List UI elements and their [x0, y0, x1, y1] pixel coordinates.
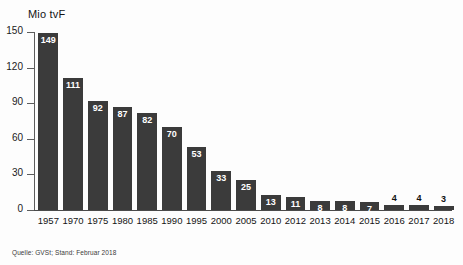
bar: 111 — [63, 78, 83, 210]
x-axis-tick-label: 1970 — [61, 215, 86, 226]
x-axis-tick-label: 2018 — [431, 215, 456, 226]
bar-value-label: 4 — [384, 194, 404, 203]
bar-value-label: 13 — [261, 198, 281, 207]
y-axis-tick-label: 90 — [12, 96, 23, 107]
bar: 25 — [236, 180, 256, 210]
bar-value-label: 25 — [236, 183, 256, 192]
x-axis-tick-label: 2016 — [382, 215, 407, 226]
bar-item: 7 — [360, 32, 380, 210]
bar-value-label: 8 — [335, 204, 355, 213]
plot-area: 0306090120150 14911192878270533325131188… — [34, 32, 454, 210]
x-axis-tick-label: 2014 — [332, 215, 357, 226]
y-axis-tick: 60 — [27, 139, 34, 140]
x-axis-tick-label: 2017 — [407, 215, 432, 226]
x-axis-tick-label: 1995 — [184, 215, 209, 226]
bar-value-label: 87 — [113, 110, 133, 119]
x-axis-line — [28, 210, 452, 211]
bar: 53 — [187, 147, 207, 210]
x-axis-tick-label: 1990 — [160, 215, 185, 226]
y-axis-tick-label: 150 — [6, 25, 23, 36]
bar-value-label: 11 — [286, 200, 306, 209]
y-axis-tick: 90 — [27, 103, 34, 104]
x-axis-tick-label: 1985 — [135, 215, 160, 226]
bar-item: 13 — [261, 32, 281, 210]
bar-value-label: 33 — [211, 174, 231, 183]
bar-item: 111 — [63, 32, 83, 210]
bar: 4 — [384, 205, 404, 210]
bar-item: 8 — [310, 32, 330, 210]
x-axis-tick-label: 2015 — [357, 215, 382, 226]
bar: 149 — [38, 33, 58, 210]
bar-item: 53 — [187, 32, 207, 210]
y-axis-tick: 0 — [27, 210, 34, 211]
bar-item: 87 — [113, 32, 133, 210]
bar: 8 — [310, 201, 330, 210]
bar: 7 — [360, 202, 380, 210]
y-axis-tick: 30 — [27, 174, 34, 175]
bar: 11 — [286, 197, 306, 210]
x-axis-tick-label: 1975 — [85, 215, 110, 226]
bar-value-label: 3 — [434, 195, 454, 204]
bar-item: 33 — [211, 32, 231, 210]
bar: 33 — [211, 171, 231, 210]
bar-value-label: 149 — [38, 36, 58, 45]
bar-value-label: 82 — [137, 116, 157, 125]
y-axis-tick-label: 120 — [6, 61, 23, 72]
bar-item: 4 — [409, 32, 429, 210]
x-axis-tick-label: 2005 — [234, 215, 259, 226]
y-axis-tick: 120 — [27, 68, 34, 69]
bar-value-label: 8 — [310, 204, 330, 213]
bar-item: 70 — [162, 32, 182, 210]
x-axis-tick-label: 1957 — [36, 215, 61, 226]
x-axis-tick-label: 1980 — [110, 215, 135, 226]
y-axis-title: Mio tvF — [28, 8, 65, 20]
bar-item: 82 — [137, 32, 157, 210]
bar: 8 — [335, 201, 355, 210]
bar-value-label: 70 — [162, 130, 182, 139]
bar: 70 — [162, 127, 182, 210]
bar-chart-figure: Mio tvF 0306090120150 149111928782705333… — [0, 0, 463, 265]
bar: 87 — [113, 107, 133, 210]
y-axis-line — [34, 32, 35, 210]
bar-item: 11 — [286, 32, 306, 210]
bar-item: 92 — [88, 32, 108, 210]
x-axis-tick-label: 2000 — [209, 215, 234, 226]
y-axis-tick-label: 60 — [12, 132, 23, 143]
y-axis-tick-label: 0 — [17, 203, 23, 214]
bar-value-label: 111 — [63, 81, 83, 90]
bar-item: 3 — [434, 32, 454, 210]
y-axis-tick-label: 30 — [12, 167, 23, 178]
y-axis-tick: 150 — [27, 32, 34, 33]
bar-item: 149 — [38, 32, 58, 210]
bar: 13 — [261, 195, 281, 210]
bar-value-label: 92 — [88, 104, 108, 113]
x-axis-tick-label: 2013 — [308, 215, 333, 226]
bar: 3 — [434, 206, 454, 210]
bar: 4 — [409, 205, 429, 210]
x-axis-tick-label: 2012 — [283, 215, 308, 226]
bar-value-label: 7 — [360, 205, 380, 214]
bar-item: 25 — [236, 32, 256, 210]
x-axis-tick-label: 2010 — [258, 215, 283, 226]
bar-value-label: 4 — [409, 194, 429, 203]
source-note: Quelle: GVSt; Stand: Februar 2018 — [12, 249, 116, 256]
bar: 92 — [88, 101, 108, 210]
bar-value-label: 53 — [187, 150, 207, 159]
bar-item: 8 — [335, 32, 355, 210]
bar: 82 — [137, 113, 157, 210]
bar-item: 4 — [384, 32, 404, 210]
